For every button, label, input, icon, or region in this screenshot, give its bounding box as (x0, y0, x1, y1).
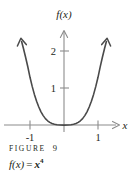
plot-area: f(x) x 2 1 -1 1 (0, 0, 133, 142)
x-tick-label-one: 1 (95, 132, 100, 142)
equation-exponent: 4 (40, 157, 44, 165)
figure-caption-number: 9 (53, 143, 57, 153)
figure-caption: FIGURE9 (9, 143, 133, 154)
equation-equals-sign: = (26, 158, 32, 170)
y-tick-label-one: 1 (51, 83, 56, 94)
y-axis-label: f(x) (56, 8, 72, 21)
figure-container: f(x) x 2 1 -1 1 FIGURE9 f(x)=x4 (0, 0, 133, 173)
figure-equation: f(x)=x4 (9, 155, 133, 171)
x-tick-label-minus-one: -1 (26, 132, 35, 142)
function-plot: f(x) x 2 1 -1 1 (0, 0, 133, 142)
caption-block: FIGURE9 f(x)=x4 (9, 143, 133, 171)
y-tick-label-two: 2 (51, 46, 56, 57)
equation-function-name: f(x) (9, 158, 24, 170)
x-axis-label: x (122, 119, 128, 131)
figure-caption-word: FIGURE (9, 144, 46, 153)
